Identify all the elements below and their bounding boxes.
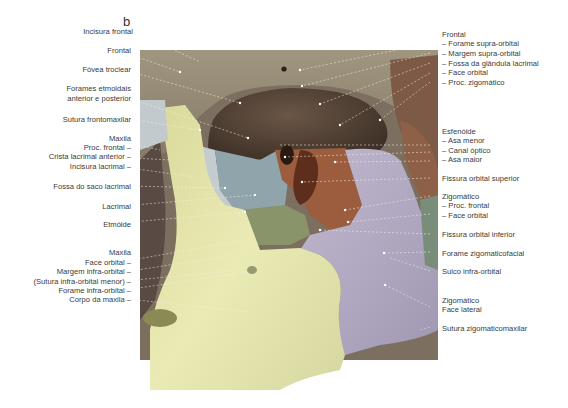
label-fossa-glandula-lacrimal: – Fossa da glândula lacrimal: [442, 59, 539, 68]
label-esfenoide: Esfenóide: [442, 127, 476, 136]
label-r-proc-frontal: – Proc. frontal: [442, 201, 489, 210]
label-incisura-lacrimal: Incisura lacrimal –: [70, 162, 131, 171]
label-sutura-frontomaxilar: Sutura frontomaxilar: [63, 115, 131, 124]
label-forame-zigomaticofacial: Forame zigomaticofacial: [442, 249, 524, 258]
label-sutura-infra-orbital-menor: (Sutura infra-orbital menor) –: [34, 277, 132, 286]
optic-canal: [280, 145, 294, 165]
label-corpo-maxila: Corpo da maxila –: [69, 295, 131, 304]
label-r-face-orbital: – Face orbital: [442, 68, 488, 77]
label-r-face-orbital-2: – Face orbital: [442, 211, 488, 220]
label-forame-supra-orbital: – Forame supra-orbital: [442, 39, 519, 48]
label-asa-maior: – Asa maior: [442, 155, 482, 164]
label-sulco-infra-orbital: Sulco infra-orbital: [442, 267, 501, 276]
label-maxila-2: Maxila: [109, 248, 131, 257]
label-proc-frontal: Proc. frontal –: [84, 143, 131, 152]
label-canal-optico: – Canal óptico: [442, 146, 491, 155]
nasal-opening: [143, 309, 177, 327]
label-forames-etmoidais-2: anterior e posterior: [67, 94, 131, 103]
label-frontal: Frontal: [107, 46, 131, 55]
label-lacrimal: Lacrimal: [102, 202, 131, 211]
label-fissura-orbital-superior: Fissura orbital superior: [442, 174, 519, 183]
label-forame-infra-orbital: Forame infra-orbital –: [58, 286, 131, 295]
label-fovea-troclear: Fóvea troclear: [82, 65, 131, 74]
label-face-lateral: Face lateral: [442, 305, 482, 314]
label-maxila: Maxila: [109, 134, 131, 143]
label-r-frontal: Frontal: [442, 30, 466, 39]
supraorbital-foramen: [281, 66, 286, 71]
label-margem-infra-orbital: Margem infra-orbital –: [57, 267, 131, 276]
label-sutura-zigomaticomaxilar: Sutura zigomaticomaxilar: [442, 324, 527, 333]
label-face-orbital: Face orbital –: [85, 258, 131, 267]
infraorbital-foramen: [247, 266, 257, 274]
label-fossa-saco-lacrimal: Fossa do saco lacrimal: [53, 182, 131, 191]
label-zigomatico-2: Zigomático: [442, 296, 479, 305]
label-zigomatico: Zigomático: [442, 192, 479, 201]
label-proc-zigomatico: – Proc. zigomático: [442, 78, 504, 87]
label-crista-lacrimal-anterior: Crista lacrimal anterior –: [49, 152, 131, 161]
label-forames-etmoidais-1: Forames etmoidais: [66, 84, 131, 93]
label-asa-menor: – Asa menor: [442, 136, 485, 145]
label-etmoide: Etmóide: [103, 220, 131, 229]
label-incisura-frontal: Incisura frontal: [83, 27, 133, 36]
label-fissura-orbital-inferior: Fissura orbital inferior: [442, 230, 515, 239]
label-margem-supra-orbital: – Margem supra-orbital: [442, 49, 521, 58]
